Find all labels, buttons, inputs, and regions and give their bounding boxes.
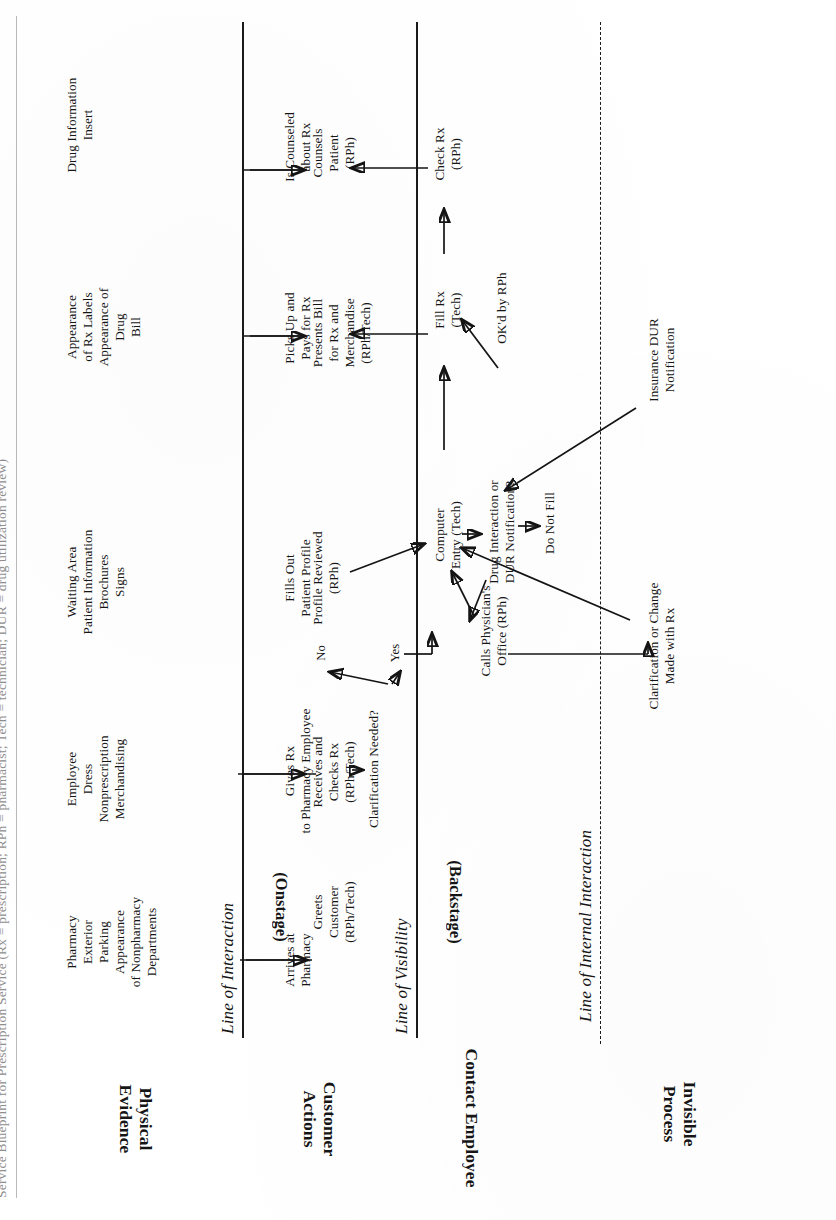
arrow-clarification-change-to-computer bbox=[462, 548, 630, 620]
arrow-layer bbox=[0, 0, 836, 1220]
arrow-insurance-dur-to-drug-interaction bbox=[506, 408, 636, 490]
arrow-profile-to-computer bbox=[350, 544, 424, 572]
arrow-calls-to-computer bbox=[452, 572, 474, 616]
arrow-branch-no bbox=[330, 672, 388, 684]
arrow-branch-yes bbox=[392, 672, 400, 684]
blueprint-canvas: Service Blueprint for Prescription Servi… bbox=[0, 0, 836, 1220]
arrow-okd-to-fill-rx bbox=[462, 320, 498, 368]
arrow-drug-interaction-to-calls bbox=[470, 580, 486, 620]
blueprint-page: Service Blueprint for Prescription Servi… bbox=[0, 0, 836, 1220]
